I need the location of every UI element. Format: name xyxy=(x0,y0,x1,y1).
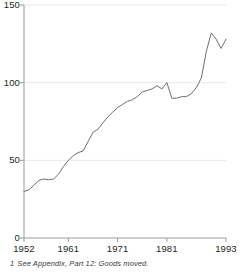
axis-ticks xyxy=(20,5,226,242)
x-axis-tick-label: 1952 xyxy=(7,244,41,254)
plot-area: 050100150 19521961197119811993 xyxy=(0,0,240,248)
x-axis-tick-label: 1981 xyxy=(150,244,184,254)
footnote-marker: 1 xyxy=(10,259,14,268)
chart-canvas xyxy=(0,0,240,248)
axes xyxy=(24,5,226,238)
footnote-text: See Appendix, Part 12: Goods moved. xyxy=(17,259,148,268)
gridlines xyxy=(24,5,226,160)
y-axis-tick-label: 100 xyxy=(0,78,20,88)
y-axis-tick-label: 150 xyxy=(0,0,20,10)
y-axis-tick-label: 0 xyxy=(0,233,20,243)
x-axis-tick-label: 1961 xyxy=(51,244,85,254)
chart-figure: 050100150 19521961197119811993 1See Appe… xyxy=(0,0,240,273)
footnote: 1See Appendix, Part 12: Goods moved. xyxy=(10,259,149,268)
x-axis-tick-label: 1993 xyxy=(209,244,240,254)
data-series-group xyxy=(24,33,226,191)
x-axis-tick-label: 1971 xyxy=(101,244,135,254)
y-axis-tick-label: 50 xyxy=(0,155,20,165)
data-line xyxy=(24,33,226,191)
